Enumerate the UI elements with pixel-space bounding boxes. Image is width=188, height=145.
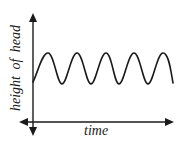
y-axis-label: height of head <box>9 25 23 111</box>
x-axis-label: time <box>84 124 108 138</box>
x-axis-left-arrow-icon <box>19 118 28 126</box>
y-axis-down-arrow-icon <box>29 127 37 136</box>
y-axis-up-arrow-icon <box>29 13 37 22</box>
oscillation-curve <box>33 53 173 84</box>
x-axis-right-arrow-icon <box>165 118 174 126</box>
head-height-diagram: time height of head <box>0 0 188 145</box>
